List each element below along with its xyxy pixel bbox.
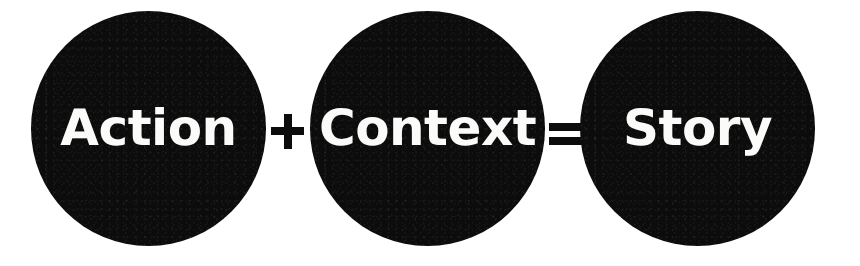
term-label-context: Context (319, 103, 536, 153)
plus-icon-vertical-bar (284, 114, 292, 149)
term-label-action: Action (60, 103, 236, 153)
plus-icon (271, 114, 304, 149)
equation-diagram: Action Context Story (0, 0, 860, 266)
term-label-story: Story (623, 103, 772, 153)
term-circle-story: Story (580, 11, 815, 246)
term-circle-context: Context (310, 11, 545, 246)
term-circle-action: Action (31, 11, 266, 246)
